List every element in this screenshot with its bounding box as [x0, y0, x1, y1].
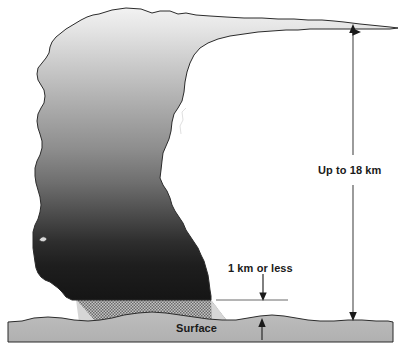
anvil-height-label: Up to 18 km: [318, 164, 381, 176]
surface-label: Surface: [176, 322, 217, 334]
thunderstorm-diagram: Up to 18 km 1 km or less Surface: [0, 0, 400, 348]
cumulonimbus-cloud: [33, 8, 398, 300]
cloud-base-height-label: 1 km or less: [228, 262, 293, 274]
